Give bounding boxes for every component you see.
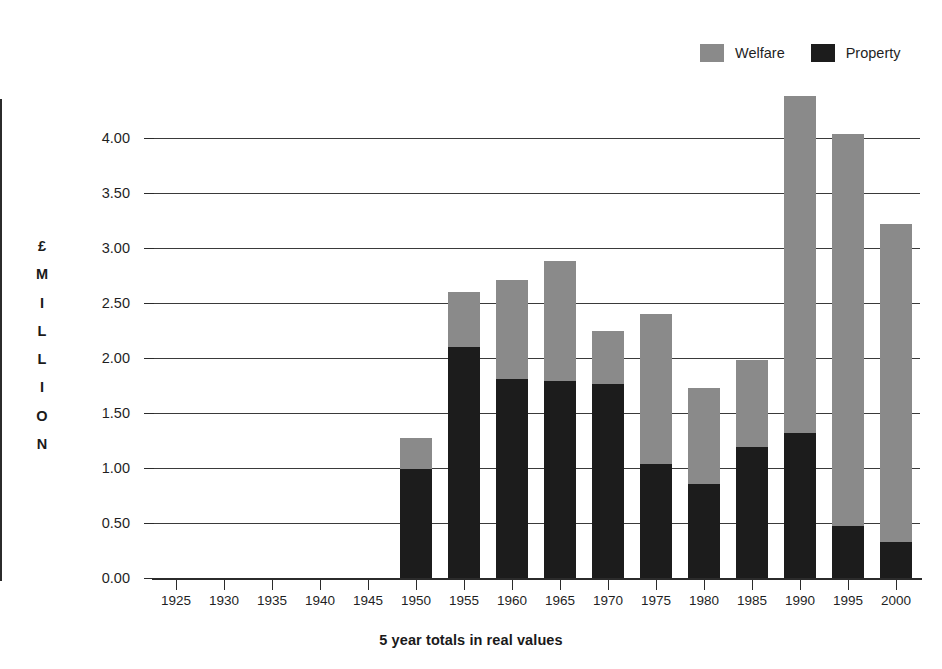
bar-1950[interactable] [400, 438, 432, 578]
bar-1975[interactable] [640, 314, 672, 578]
bar-1995[interactable] [832, 134, 864, 578]
bar-segment-welfare[interactable] [880, 224, 912, 542]
bar-1985[interactable] [736, 360, 768, 578]
bar-segment-welfare[interactable] [784, 96, 816, 433]
x-axis-tick-label: 1950 [401, 594, 431, 608]
x-axis-tick [224, 579, 225, 590]
x-axis-tick [416, 579, 417, 590]
bar-segment-welfare[interactable] [400, 438, 432, 469]
x-axis-tick [656, 579, 657, 590]
chart-legend: Welfare Property [700, 44, 901, 62]
bar-segment-property[interactable] [640, 464, 672, 578]
y-axis-title-char: N [22, 430, 62, 458]
y-axis-title-char: M [22, 260, 62, 288]
bar-segment-welfare[interactable] [688, 388, 720, 485]
x-axis-tick-label: 1995 [833, 594, 863, 608]
y-axis-tick-label: 3.00 [74, 241, 130, 256]
bar-segment-property[interactable] [448, 347, 480, 578]
bar-1980[interactable] [688, 388, 720, 578]
bar-segment-welfare[interactable] [832, 134, 864, 527]
y-axis-tick [144, 138, 154, 139]
y-axis-tick [144, 248, 154, 249]
x-axis-tick [176, 579, 177, 590]
bar-segment-property[interactable] [400, 469, 432, 578]
y-axis-tick-label: 0.00 [74, 571, 130, 586]
x-axis-line [152, 578, 922, 580]
bar-2000[interactable] [880, 224, 912, 578]
bar-1990[interactable] [784, 96, 816, 578]
bar-segment-property[interactable] [736, 447, 768, 578]
y-axis-title-char: O [22, 402, 62, 430]
chart-canvas: Welfare Property £ M I L L I O N 0.000.5… [0, 0, 942, 669]
y-axis-tick-label: 0.50 [74, 516, 130, 531]
y-axis-tick [144, 193, 154, 194]
bar-segment-property[interactable] [880, 542, 912, 578]
bar-1970[interactable] [592, 331, 624, 579]
bar-segment-welfare[interactable] [592, 331, 624, 385]
y-axis-title-char: L [22, 345, 62, 373]
legend-label-property: Property [846, 46, 901, 61]
bar-segment-welfare[interactable] [736, 360, 768, 447]
bar-segment-property[interactable] [592, 384, 624, 578]
x-axis-tick-label: 1965 [545, 594, 575, 608]
x-axis-tick [704, 579, 705, 590]
bar-segment-welfare[interactable] [496, 280, 528, 379]
y-axis-title-char: L [22, 317, 62, 345]
y-axis-title-char: I [22, 373, 62, 401]
y-axis-title-char: £ [22, 232, 62, 260]
x-axis-tick [464, 579, 465, 590]
x-axis-tick-label: 1980 [689, 594, 719, 608]
legend-label-welfare: Welfare [735, 46, 785, 61]
x-axis-tick-label: 1935 [257, 594, 287, 608]
bar-1960[interactable] [496, 280, 528, 578]
x-axis-tick [608, 579, 609, 590]
bar-1955[interactable] [448, 292, 480, 578]
x-axis-tick [752, 579, 753, 590]
y-axis-tick-label: 2.00 [74, 351, 130, 366]
bar-segment-welfare[interactable] [544, 261, 576, 381]
x-axis-tick-label: 1925 [161, 594, 191, 608]
bar-segment-property[interactable] [544, 381, 576, 578]
x-axis-tick-label: 1940 [305, 594, 335, 608]
legend-item-welfare: Welfare [700, 44, 785, 62]
y-axis-labels: 0.000.501.001.502.002.503.003.504.00 [74, 0, 130, 669]
bar-segment-property[interactable] [832, 526, 864, 578]
y-axis-line [0, 99, 2, 581]
y-axis-tick [144, 303, 154, 304]
y-axis-title-char: I [22, 289, 62, 317]
legend-item-property: Property [811, 44, 901, 62]
bar-segment-welfare[interactable] [640, 314, 672, 464]
bar-segment-property[interactable] [688, 484, 720, 578]
y-axis-tick [144, 358, 154, 359]
x-axis-tick-label: 1930 [209, 594, 239, 608]
y-axis-tick-label: 4.00 [74, 131, 130, 146]
x-axis-tick [512, 579, 513, 590]
x-axis-title: 5 year totals in real values [0, 632, 942, 648]
x-axis-tick-label: 1945 [353, 594, 383, 608]
y-axis-tick-label: 1.00 [74, 461, 130, 476]
bar-1965[interactable] [544, 261, 576, 578]
x-axis-tick [320, 579, 321, 590]
y-axis-tick-label: 3.50 [74, 186, 130, 201]
y-axis-tick [144, 468, 154, 469]
x-axis-tick-label: 1985 [737, 594, 767, 608]
bar-segment-property[interactable] [784, 433, 816, 578]
x-axis-tick-label: 1990 [785, 594, 815, 608]
x-axis-tick [848, 579, 849, 590]
bar-segment-property[interactable] [496, 379, 528, 578]
legend-swatch-welfare [700, 44, 724, 62]
bar-segment-welfare[interactable] [448, 292, 480, 347]
x-axis-tick [800, 579, 801, 590]
x-axis-tick-label: 1970 [593, 594, 623, 608]
y-axis-title: £ M I L L I O N [22, 232, 62, 458]
x-axis-tick-label: 1960 [497, 594, 527, 608]
x-axis-tick-label: 2000 [881, 594, 911, 608]
x-axis-tick [368, 579, 369, 590]
x-axis-tick [896, 579, 897, 590]
y-axis-tick [144, 578, 154, 579]
y-axis-tick [144, 523, 154, 524]
y-axis-tick-label: 1.50 [74, 406, 130, 421]
legend-swatch-property [811, 44, 835, 62]
y-axis-tick-label: 2.50 [74, 296, 130, 311]
x-axis-tick [272, 579, 273, 590]
